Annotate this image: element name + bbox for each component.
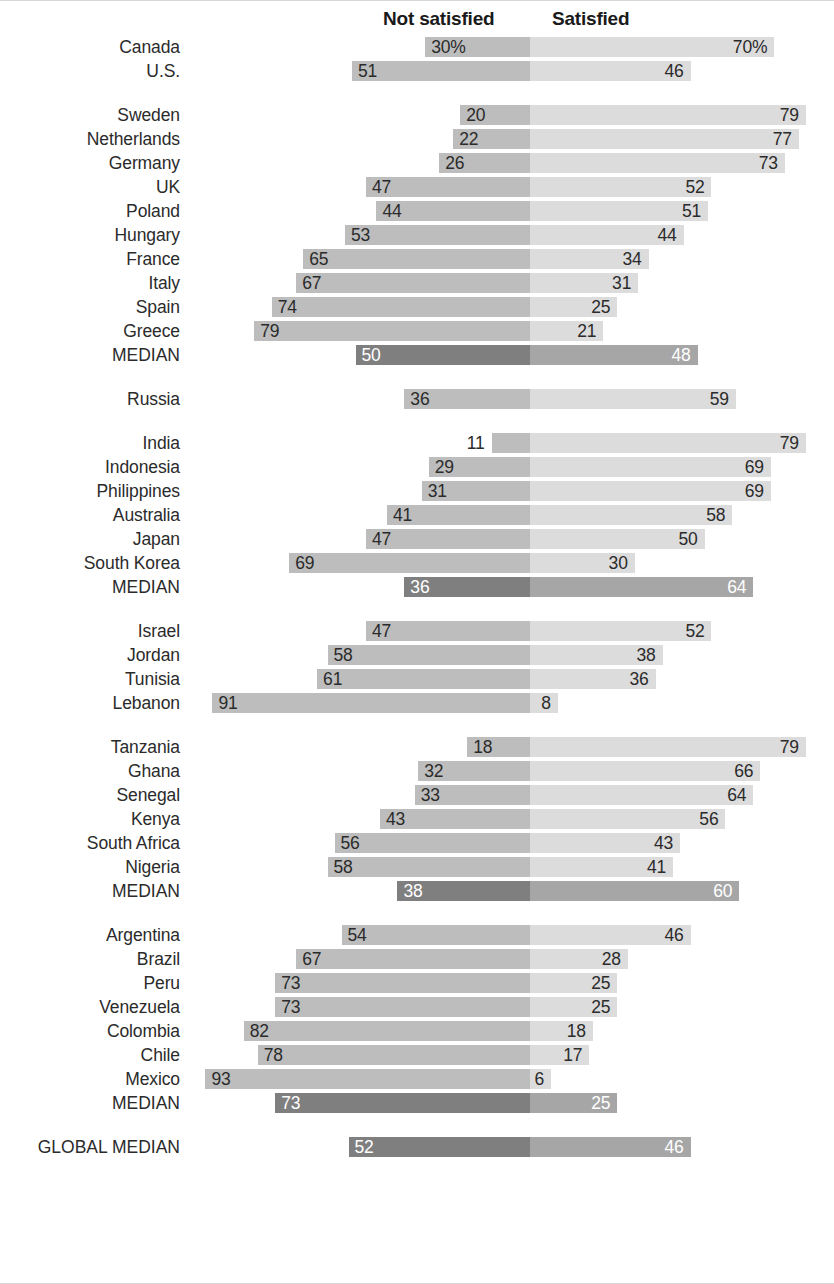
chart-row: Russia3659 (0, 387, 834, 411)
row-bars: 7425 (0, 297, 834, 317)
value-satisfied: 46 (664, 925, 683, 945)
value-satisfied: 64 (727, 785, 746, 805)
value-satisfied: 8 (541, 693, 551, 713)
bar-satisfied: 36 (530, 669, 656, 689)
bar-satisfied: 41 (530, 857, 673, 877)
value-satisfied: 25 (591, 973, 610, 993)
bar-satisfied: 79 (530, 105, 806, 125)
chart-row: South Africa5643 (0, 831, 834, 855)
value-not-satisfied: 53 (351, 225, 370, 245)
bar-satisfied: 31 (530, 273, 638, 293)
chart-row: Jordan5838 (0, 643, 834, 667)
row-bars: 4451 (0, 201, 834, 221)
value-not-satisfied: 22 (459, 129, 478, 149)
bar-not-satisfied: 20 (460, 105, 530, 125)
bar-not-satisfied: 82 (244, 1021, 530, 1041)
bar-satisfied: 18 (530, 1021, 593, 1041)
bar-not-satisfied: 36 (404, 389, 530, 409)
bar-not-satisfied: 44 (376, 201, 530, 221)
chart-row: MEDIAN3664 (0, 575, 834, 599)
legend-not-satisfied-label: Not satisfied (383, 8, 494, 30)
bar-satisfied: 51 (530, 201, 708, 221)
bar-not-satisfied: 22 (453, 129, 530, 149)
value-satisfied: 56 (699, 809, 718, 829)
chart-row: Chile7817 (0, 1043, 834, 1067)
value-satisfied: 77 (773, 129, 792, 149)
value-not-satisfied: 11 (467, 433, 485, 453)
row-bars: 5446 (0, 925, 834, 945)
bar-not-satisfied: 54 (342, 925, 530, 945)
value-satisfied: 25 (591, 997, 610, 1017)
value-not-satisfied: 65 (309, 249, 328, 269)
row-bars: 6731 (0, 273, 834, 293)
value-satisfied: 52 (685, 621, 704, 641)
bar-satisfied: 8 (530, 693, 558, 713)
value-satisfied: 36 (630, 669, 649, 689)
bar-not-satisfied: 67 (296, 273, 530, 293)
bar-satisfied: 17 (530, 1045, 589, 1065)
bar-not-satisfied: 53 (345, 225, 530, 245)
value-not-satisfied: 93 (211, 1069, 230, 1089)
row-bars: 2079 (0, 105, 834, 125)
bar-satisfied: 43 (530, 833, 680, 853)
value-satisfied: 43 (654, 833, 673, 853)
value-satisfied: 79 (780, 105, 799, 125)
bar-satisfied: 50 (530, 529, 705, 549)
bar-satisfied: 34 (530, 249, 649, 269)
value-satisfied: 41 (647, 857, 666, 877)
bar-not-satisfied: 50 (356, 345, 531, 365)
bar-not-satisfied: 31 (422, 481, 530, 501)
bar-satisfied: 21 (530, 321, 603, 341)
value-not-satisfied: 29 (435, 457, 454, 477)
row-bars: 936 (0, 1069, 834, 1089)
chart-row: Lebanon918 (0, 691, 834, 715)
value-not-satisfied: 44 (382, 201, 401, 221)
value-not-satisfied: 73 (281, 1093, 300, 1113)
row-bars: 2277 (0, 129, 834, 149)
chart-row: Ghana3266 (0, 759, 834, 783)
bar-satisfied: 70% (530, 37, 774, 57)
chart-row: Canada30%70% (0, 35, 834, 59)
bar-satisfied: 69 (530, 481, 771, 501)
row-bars: 3169 (0, 481, 834, 501)
bar-satisfied: 79 (530, 433, 806, 453)
value-not-satisfied: 30% (431, 37, 465, 57)
group-spacer (0, 1115, 834, 1135)
bar-not-satisfied: 41 (387, 505, 530, 525)
chart-row: Venezuela7325 (0, 995, 834, 1019)
value-not-satisfied: 47 (372, 529, 391, 549)
row-bars: 6930 (0, 553, 834, 573)
bar-not-satisfied: 47 (366, 177, 530, 197)
bar-satisfied: 25 (530, 1093, 617, 1113)
bar-satisfied: 73 (530, 153, 785, 173)
chart-row: Spain7425 (0, 295, 834, 319)
bar-satisfied: 30 (530, 553, 635, 573)
bar-not-satisfied: 51 (352, 61, 530, 81)
row-bars: 5048 (0, 345, 834, 365)
value-not-satisfied: 73 (281, 973, 300, 993)
row-bars: 6728 (0, 949, 834, 969)
bar-satisfied: 64 (530, 785, 753, 805)
bar-not-satisfied: 73 (275, 973, 530, 993)
bar-satisfied: 59 (530, 389, 736, 409)
value-satisfied: 18 (567, 1021, 586, 1041)
row-bars: 4750 (0, 529, 834, 549)
chart-row: Mexico936 (0, 1067, 834, 1091)
value-not-satisfied: 47 (372, 177, 391, 197)
chart-legend-header: Not satisfied Satisfied (0, 1, 834, 35)
bar-not-satisfied: 73 (275, 997, 530, 1017)
bar-not-satisfied: 33 (415, 785, 530, 805)
bar-satisfied: 46 (530, 1137, 691, 1157)
chart-row: Greece7921 (0, 319, 834, 343)
bar-satisfied: 64 (530, 577, 753, 597)
bar-not-satisfied: 11 (492, 433, 530, 453)
row-bars: 3266 (0, 761, 834, 781)
value-not-satisfied: 26 (445, 153, 464, 173)
chart-row: Israel4752 (0, 619, 834, 643)
value-not-satisfied: 52 (355, 1137, 374, 1157)
row-bars: 4752 (0, 621, 834, 641)
bar-not-satisfied: 56 (335, 833, 530, 853)
value-not-satisfied: 50 (362, 345, 381, 365)
bar-not-satisfied: 65 (303, 249, 530, 269)
value-satisfied: 79 (780, 433, 799, 453)
